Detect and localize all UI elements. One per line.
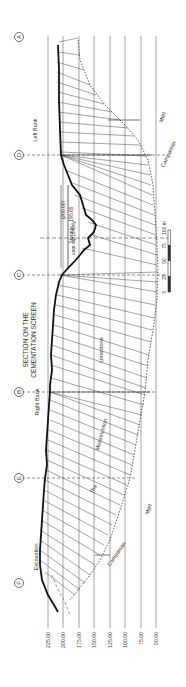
the-label: The: [88, 483, 98, 494]
title-line1: SECTION ON THE: [22, 312, 29, 368]
moastrichtion-label: Moastrichtion: [94, 418, 108, 451]
title-line2: CEMENTATION SCREEN: [30, 302, 37, 378]
marl-label-left: Marl: [157, 111, 166, 123]
right-bank-label: Right Bank: [34, 388, 40, 415]
excavation-label: Excavation: [33, 544, 39, 571]
elevation-tick: 225.00: [45, 632, 51, 648]
axis-of-dam-label: Axis of the dam: [71, 220, 77, 255]
elevation-grid: [48, 36, 156, 628]
scale-label: 50: [161, 258, 167, 264]
campanian-label-right: Campanian: [106, 541, 127, 567]
campanian-label-left: Campanian: [160, 140, 177, 168]
section-label-e: E: [16, 476, 22, 480]
scale-label: 100 m: [161, 221, 167, 235]
elevation-tick: 75.00: [138, 632, 144, 645]
section-label-a: A: [16, 35, 22, 39]
elevation-tick: 150.00: [91, 632, 97, 648]
elevation-tick: 50.00: [153, 632, 159, 645]
limestone-label: Limestone: [98, 337, 104, 362]
cementation-screen-diagram: A D C B E F SECTION ON THE CEMENTATION S…: [0, 0, 186, 687]
section-label-b: B: [16, 390, 22, 394]
section-label-f: F: [16, 581, 22, 585]
elevation-tick: 200.00: [60, 632, 66, 648]
elevation-tick: 125.00: [107, 632, 113, 648]
section-label-d: D: [16, 152, 22, 157]
left-bank-label: Left Bank: [32, 118, 38, 141]
section-markers: [15, 33, 24, 588]
elevation-tick: 175.00: [76, 632, 82, 648]
curtain-hatching: [40, 38, 158, 595]
excavation-line: [52, 575, 70, 615]
section-label-c: C: [16, 272, 22, 277]
ground-profile: [40, 45, 96, 612]
storage-top-label: (200.00): [60, 200, 66, 219]
elevation-tick: 100.00: [122, 632, 128, 648]
marl-label-right: Marl: [143, 503, 152, 515]
scale-label: 0: [161, 290, 167, 293]
scale-label: 25: [161, 274, 167, 280]
scale-bar: [168, 230, 171, 292]
section-lines: [22, 155, 165, 478]
scale-label: 75: [161, 243, 167, 249]
